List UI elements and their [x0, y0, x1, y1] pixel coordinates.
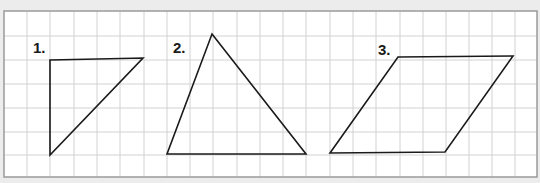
shapes-grid-figure: 1. 2. 3.: [0, 0, 540, 183]
shape-label-3: 3.: [378, 41, 391, 58]
shape-label-1: 1.: [33, 39, 46, 56]
shape-label-2: 2.: [173, 39, 186, 56]
